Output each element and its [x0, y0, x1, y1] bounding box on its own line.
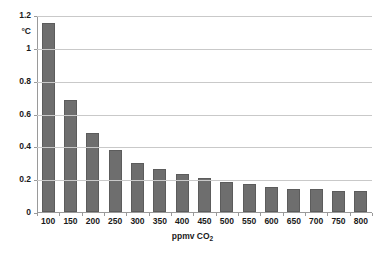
bar: [42, 23, 55, 212]
y-tick-label: 0.8: [19, 77, 31, 86]
y-axis-unit-label: °C: [21, 27, 31, 36]
x-tick-label: 600: [260, 216, 282, 226]
bar: [198, 178, 211, 212]
y-tick-mark: [34, 115, 37, 116]
x-tick-label: 650: [283, 216, 305, 226]
y-tick-label: 0.2: [19, 175, 31, 184]
co2-temperature-sensitivity-chart: °C 00.20.40.60.811.2 1001502002503003504…: [0, 0, 385, 255]
gridline: [37, 49, 372, 50]
bar: [131, 163, 144, 212]
x-axis-title-base: ppmv CO: [172, 231, 210, 241]
x-tick-label: 450: [193, 216, 215, 226]
y-tick-mark: [34, 16, 37, 17]
bar: [265, 187, 278, 212]
y-tick-mark: [34, 147, 37, 148]
x-tick-label: 750: [327, 216, 349, 226]
bar: [287, 189, 300, 212]
x-axis-title: ppmv CO2: [0, 231, 385, 241]
gridline: [37, 180, 372, 181]
x-tick-label: 250: [104, 216, 126, 226]
bar: [332, 191, 345, 212]
x-tick-label: 800: [350, 216, 372, 226]
y-tick-label: 0.4: [19, 142, 31, 151]
y-tick-label: 1: [26, 44, 31, 53]
y-tick-mark: [34, 82, 37, 83]
bar: [64, 100, 77, 212]
bar: [243, 184, 256, 212]
bar: [220, 182, 233, 212]
x-tick-label: 300: [126, 216, 148, 226]
x-tick-label: 500: [216, 216, 238, 226]
x-tick-label: 150: [59, 216, 81, 226]
plot-area: [37, 16, 372, 213]
y-tick-label: 0.6: [19, 110, 31, 119]
x-tick-label: 100: [37, 216, 59, 226]
y-axis: °C 00.20.40.60.811.2: [0, 0, 34, 255]
bar: [354, 191, 367, 212]
bar: [86, 133, 99, 212]
y-tick-mark: [34, 49, 37, 50]
x-tick-label: 400: [171, 216, 193, 226]
y-tick-mark: [34, 180, 37, 181]
gridline: [37, 115, 372, 116]
x-tick-label: 550: [238, 216, 260, 226]
x-axis: 1001502002503003504004505005506006507007…: [37, 216, 372, 230]
gridline: [37, 82, 372, 83]
y-tick-label: 1.2: [19, 11, 31, 20]
y-tick-label: 0: [26, 208, 31, 217]
bar: [153, 169, 166, 212]
x-tick-mark: [372, 213, 373, 216]
x-tick-label: 700: [305, 216, 327, 226]
gridline: [37, 147, 372, 148]
bar: [310, 189, 323, 212]
gridline: [37, 16, 372, 17]
x-tick-label: 350: [149, 216, 171, 226]
x-tick-label: 200: [82, 216, 104, 226]
x-axis-title-subscript: 2: [210, 235, 214, 242]
